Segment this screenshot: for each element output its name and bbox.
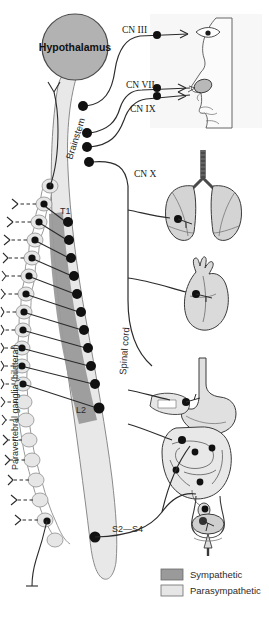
autonomic-nervous-system-diagram: Hypothalamus (0, 0, 269, 622)
label-cn9: CN IX (130, 104, 156, 114)
legend-label-parasympathetic: Parasympathetic (190, 585, 261, 596)
label-l2: L2 (76, 405, 86, 415)
legend-item-parasympathetic: Parasympathetic (161, 585, 261, 596)
legend-swatch-parasympathetic (161, 585, 183, 596)
label-cn7: CN VII (126, 80, 155, 90)
label-cn3: CN III (122, 25, 147, 35)
legend-swatch-sympathetic (161, 569, 183, 580)
label-paravertebral-ganglia: Paravertebral ganglia (bilateral) (10, 344, 20, 470)
label-t1: T1 (60, 206, 71, 216)
hypothalamus-label: Hypothalamus (39, 41, 112, 53)
label-cn10: CN X (134, 169, 157, 179)
label-s2s4: S2—S4 (112, 524, 143, 534)
legend-label-sympathetic: Sympathetic (190, 569, 243, 580)
legend-item-sympathetic: Sympathetic (161, 569, 243, 580)
